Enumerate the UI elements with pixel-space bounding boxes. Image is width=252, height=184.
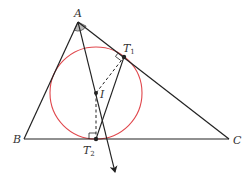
label-t1-sub: 1 — [130, 48, 134, 56]
point-t1 — [122, 55, 126, 59]
incircle-diagram: A B C I T1 T2 — [0, 0, 252, 184]
label-t2: T2 — [83, 144, 95, 158]
label-c: C — [233, 134, 242, 147]
label-i: I — [99, 88, 105, 101]
label-a: A — [73, 7, 82, 20]
side-ab — [24, 22, 78, 139]
diagram-canvas: A B C I T1 T2 — [0, 0, 252, 184]
label-t1: T1 — [123, 42, 135, 56]
point-i — [94, 91, 98, 95]
point-t2 — [94, 137, 98, 141]
label-t2-sub: 2 — [90, 150, 94, 158]
label-b: B — [12, 133, 21, 146]
side-ac — [78, 22, 229, 139]
